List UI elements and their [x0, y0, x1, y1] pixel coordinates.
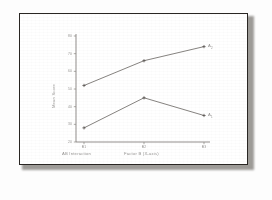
data-point-A2 [142, 59, 145, 62]
data-markers-group [82, 45, 205, 129]
data-series-group [84, 47, 204, 128]
series-endpoint-label-A1: A1 [208, 112, 213, 119]
data-point-A1 [202, 114, 205, 117]
x-tick-label: B1 [76, 145, 92, 149]
y-tick-label: 70 [59, 52, 72, 56]
x-axis-caption: Factor B (X-axis) [124, 151, 159, 156]
y-axis-title: Mean Score [51, 84, 56, 108]
data-point-A2 [82, 84, 85, 87]
y-tick-label: 50 [59, 87, 72, 91]
series-line-A2 [84, 47, 204, 86]
left-caption: AB Interaction [62, 151, 91, 156]
series-endpoint-label-A2: A2 [208, 43, 213, 50]
data-point-A1 [82, 126, 85, 129]
scanned-page: 80706050403020 B1B2B3 A2A1 Mean Score AB… [0, 0, 272, 200]
data-point-A1 [142, 96, 145, 99]
series-line-A1 [84, 98, 204, 128]
plot-svg [64, 30, 224, 152]
x-tick-label: B2 [136, 145, 152, 149]
x-tick-label: B3 [196, 145, 212, 149]
y-tick-label: 60 [59, 69, 72, 73]
data-point-A2 [202, 45, 205, 48]
y-tick-label: 40 [59, 105, 72, 109]
y-tick-label: 80 [59, 34, 72, 38]
y-tick-label: 20 [59, 140, 72, 144]
y-tick-label: 30 [59, 122, 72, 126]
interaction-plot: 80706050403020 B1B2B3 A2A1 Mean Score [64, 30, 224, 152]
